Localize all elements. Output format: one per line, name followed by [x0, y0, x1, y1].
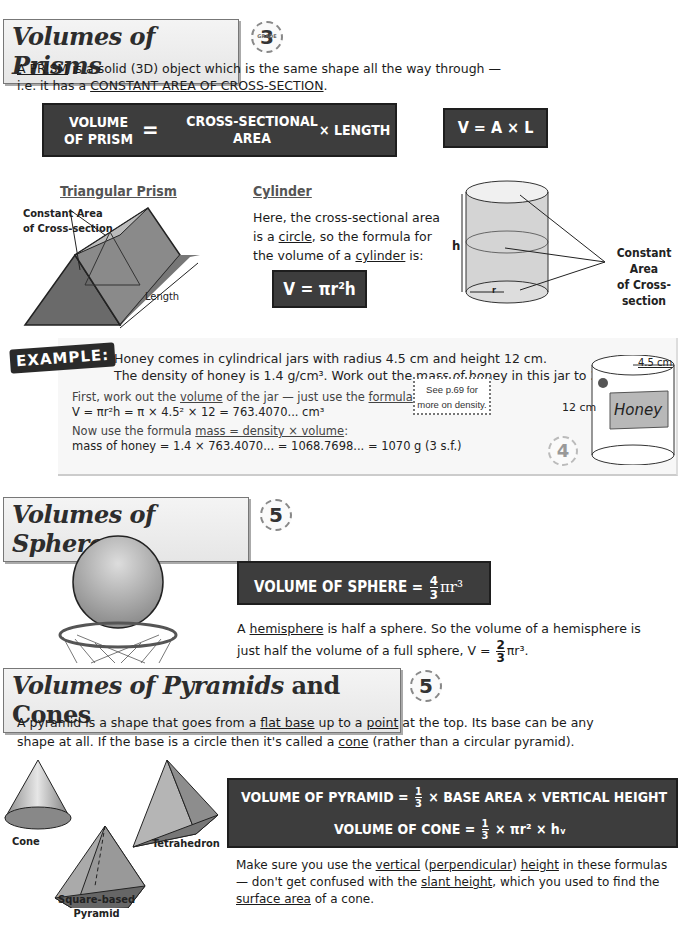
length-label: Length [145, 290, 179, 303]
grade-badge-5-spheres: 5 [260, 499, 292, 531]
cylinder-heading: Cylinder [253, 183, 312, 199]
example-question: Honey comes in cylindrical jars with rad… [114, 350, 620, 384]
basketball-hoop-diagram [55, 535, 185, 665]
cylinder-h-label: h [452, 238, 460, 253]
jar-height-label: 12 cm [562, 400, 596, 416]
cylinder-pointer-lines [500, 190, 610, 300]
cylinder-cross-section-label: Constant Area of Cross-section [605, 245, 683, 309]
density-note: See p.69 for more on density. [413, 377, 491, 415]
pyramid-cone-formula-box: VOLUME OF PYRAMID = 13 × BASE AREA × VER… [227, 778, 678, 848]
cone-label: Cone [12, 835, 40, 848]
cylinder-formula: V = πr²h [272, 270, 367, 308]
example-working: First, work out the volume of the jar — … [72, 390, 462, 454]
tetrahedron-label: Tetrahedron [152, 837, 220, 850]
triangular-prism-diagram [20, 205, 210, 330]
pyramid-definition: A pyramid is a shape that goes from a fl… [17, 713, 677, 751]
jar-honey-label: Honey [614, 402, 662, 418]
grade-badge-5-pyramids: 5 [410, 670, 442, 702]
prism-volume-formula-box: VOLUME OF PRISM = CROSS-SECTIONAL AREA ×… [42, 103, 397, 157]
cylinder-r-label: r [492, 285, 496, 295]
cone-pyramid-tetrahedron-diagram [0, 758, 225, 908]
grade-badge-3: GRADE 3 [251, 21, 283, 53]
grade-badge-4: 4 [548, 436, 578, 466]
prism-definition: A PRISM is a solid (3D) object which is … [17, 60, 537, 94]
hemisphere-text: A hemisphere is half a sphere. So the vo… [237, 619, 677, 664]
cylinder-text: Here, the cross-sectional area is a circ… [253, 208, 440, 265]
short-prism-formula: V = A × L [443, 108, 548, 148]
square-pyramid-label: Square-based Pyramid [58, 893, 135, 921]
vertical-height-tip: Make sure you use the vertical (perpendi… [236, 857, 681, 908]
triangular-prism-heading: Triangular Prism [60, 183, 177, 199]
jar-radius-label: 4.5 cm [638, 355, 672, 371]
sphere-formula-box: VOLUME OF SPHERE = 43πr³ [237, 561, 491, 605]
